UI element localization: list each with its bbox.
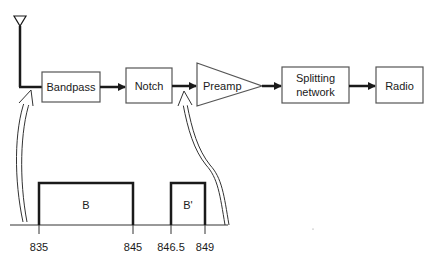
dot	[312, 228, 313, 229]
radio-block: Radio	[376, 67, 423, 103]
bandpass-label: Bandpass	[47, 81, 96, 93]
notch-label: Notch	[135, 80, 164, 92]
band-b-label: B	[82, 199, 89, 211]
splitting-label-line2: network	[296, 86, 335, 98]
notch-block: Notch	[126, 68, 172, 103]
tick-849: 849	[196, 241, 214, 253]
splitting-network-block: Splitting network	[282, 67, 349, 103]
spectrum-plot: B B' 835 845 846.5 849	[10, 183, 228, 253]
splitting-label-line1: Splitting	[296, 72, 335, 84]
preamp-label: Preamp	[203, 80, 242, 92]
tick-845: 845	[124, 241, 142, 253]
block-diagram: Bandpass Notch Preamp Splitting network …	[0, 0, 430, 265]
tick-846-5: 846.5	[157, 241, 185, 253]
antenna-icon	[14, 16, 42, 87]
bandpass-block: Bandpass	[42, 72, 100, 102]
radio-label: Radio	[385, 80, 414, 92]
band-b-prime-label: B'	[183, 199, 192, 211]
preamp-block: Preamp	[197, 63, 262, 106]
double-arrow-icon	[16, 90, 33, 222]
tick-835: 835	[30, 241, 48, 253]
